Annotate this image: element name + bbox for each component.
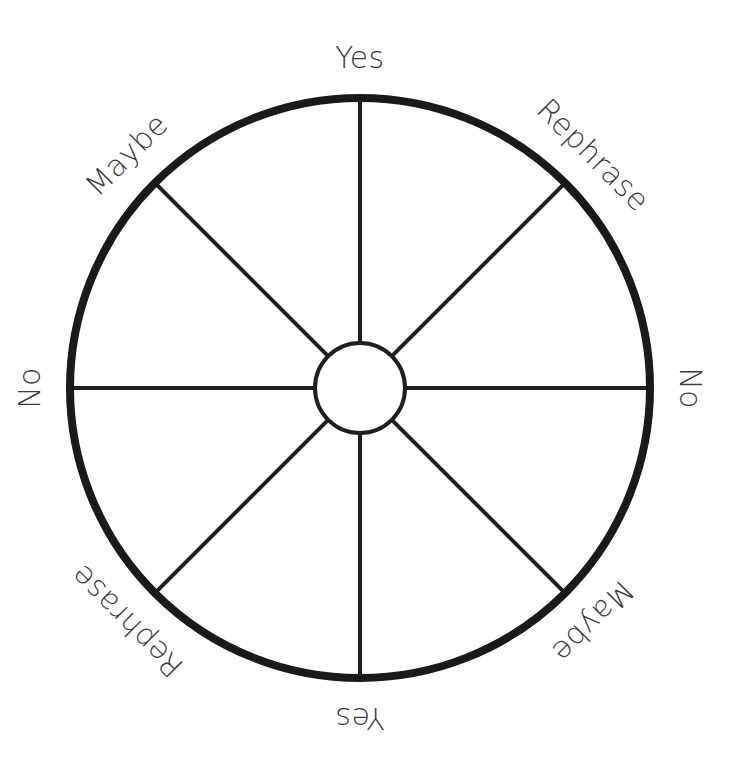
wheel-segment-label: No <box>15 367 45 409</box>
spoke-upper-left <box>155 183 328 356</box>
wheel-segment-label: Yes <box>335 43 385 73</box>
spoke-lower-left <box>155 420 328 593</box>
wheel-segment-label: Yes <box>335 703 385 733</box>
wheel-hub-circle <box>315 343 405 433</box>
wheel-segment-label: No <box>675 367 705 409</box>
spoke-lower-right <box>392 420 565 593</box>
spinner-wheel-canvas: YesRephraseNoMaybeYesRephraseNoMaybe <box>0 0 745 772</box>
spoke-upper-right <box>392 183 565 356</box>
wheel-graphic <box>0 0 745 772</box>
